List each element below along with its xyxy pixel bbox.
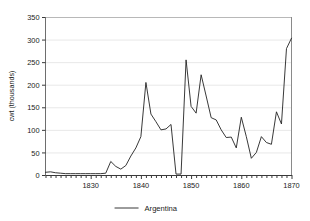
series-line — [46, 38, 292, 174]
y-tick-label: 50 — [31, 149, 39, 158]
y-tick-label: 150 — [27, 103, 39, 112]
chart-figure: 050100150200250300350 183018401850186018… — [0, 0, 310, 221]
y-axis-ticks: 050100150200250300350 — [27, 13, 45, 180]
series-lines — [46, 38, 292, 174]
chart-legend: Argentina — [115, 204, 178, 213]
y-tick-label: 0 — [35, 171, 39, 180]
y-tick-label: 100 — [27, 126, 39, 135]
x-tick-label: 1850 — [183, 181, 199, 190]
gridlines — [46, 18, 292, 153]
x-tick-label: 1870 — [283, 181, 299, 190]
plot-frame — [46, 17, 293, 176]
legend-label: Argentina — [145, 204, 178, 213]
y-tick-label: 200 — [27, 81, 39, 90]
y-tick-label: 250 — [27, 58, 39, 67]
y-tick-label: 350 — [27, 13, 39, 22]
x-axis-ticks: 18301840185018601870 — [46, 175, 300, 190]
y-tick-label: 300 — [27, 36, 39, 45]
y-axis-title: cwt (thousands) — [7, 71, 16, 122]
x-tick-label: 1840 — [133, 181, 149, 190]
x-tick-label: 1830 — [82, 181, 98, 190]
line-chart: 050100150200250300350 183018401850186018… — [0, 0, 310, 221]
x-tick-label: 1860 — [233, 181, 249, 190]
